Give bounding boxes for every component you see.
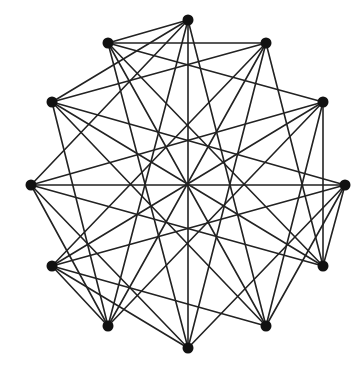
node-V6 [183,343,194,354]
node-V4 [318,261,329,272]
graph-diagram [0,0,359,367]
node-V3 [340,180,351,191]
node-V0 [183,15,194,26]
edge-V1-V10 [52,43,266,102]
edge-V7-V9 [31,185,108,326]
edges-layer [31,20,345,348]
node-V8 [47,261,58,272]
node-V9 [26,180,37,191]
node-V10 [47,97,58,108]
node-V2 [318,97,329,108]
node-V11 [103,38,114,49]
node-V7 [103,321,114,332]
edge-V7-V10 [52,102,108,326]
edge-V2-V11 [108,43,323,102]
edge-V2-V5 [266,102,323,326]
edge-V3-V8 [52,185,345,266]
edge-V1-V4 [266,43,323,266]
node-V1 [261,38,272,49]
node-V5 [261,321,272,332]
edge-V2-V7 [108,102,323,326]
